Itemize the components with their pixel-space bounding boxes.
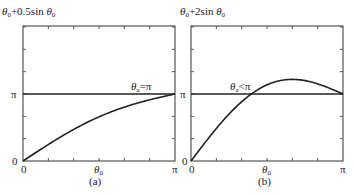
panel-b-annotation: θa<π xyxy=(230,81,250,96)
panel-a-plot xyxy=(23,26,175,161)
panel-b-x-tick-0: 0 xyxy=(189,164,195,175)
panel-b-title: θ0+2sin θ0 xyxy=(180,6,225,21)
panel-b-y-tick-0: 0 xyxy=(182,156,188,167)
panel-b-x-tick-pi: π xyxy=(340,164,346,175)
panel-a-annotation: θa=π xyxy=(131,81,151,96)
panel-b-caption: (b) xyxy=(258,176,271,187)
panel-b-y-tick-pi: π xyxy=(180,89,186,100)
panel-a-title: θ0+0.5sin θ0 xyxy=(2,6,55,21)
panel-a-x-tick-0: 0 xyxy=(21,164,27,175)
function-curve xyxy=(191,79,343,161)
panel-a-y-tick-0: 0 xyxy=(12,156,18,167)
panel-a-x-tick-pi: π xyxy=(172,164,178,175)
function-curve xyxy=(23,94,175,161)
panel-b-plot xyxy=(191,26,343,161)
panel-a-y-tick-pi: π xyxy=(11,89,17,100)
panel-a-caption: (a) xyxy=(89,176,101,187)
